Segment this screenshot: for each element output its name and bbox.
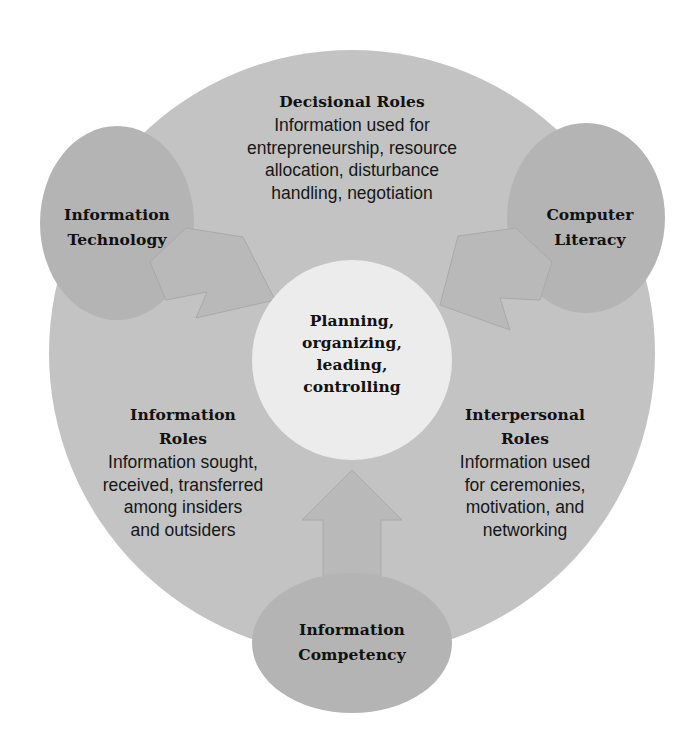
information-roles-title: Information Roles [83,403,283,451]
center-line: leading, [262,354,442,376]
description-line: networking [425,519,625,542]
title-line: Interpersonal [425,403,625,427]
label-line: Literacy [520,227,660,252]
center-functions-label: Planning, organizing, leading, controlli… [262,310,442,398]
computer-literacy-label: Computer Literacy [520,202,660,252]
description-line: Information used [425,451,625,474]
label-line: Information [37,202,197,227]
title-line: Decisional Roles [202,90,502,114]
decisional-roles-title: Decisional Roles [202,90,502,114]
label-line: Competency [272,642,432,667]
description-line: among insiders [83,496,283,519]
label-line: Information [272,617,432,642]
information-technology-label: Information Technology [37,202,197,252]
information-competency-label: Information Competency [272,617,432,667]
decisional-roles-block: Decisional Roles Information used for en… [202,90,502,204]
description-line: Information sought, [83,451,283,474]
description-line: handling, negotiation [202,182,502,205]
managerial-roles-diagram: Decisional Roles Information used for en… [0,0,691,740]
label-line: Computer [520,202,660,227]
description-line: and outsiders [83,519,283,542]
interpersonal-roles-title: Interpersonal Roles [425,403,625,451]
center-line: Planning, [262,310,442,332]
title-line: Information [83,403,283,427]
description-line: motivation, and [425,496,625,519]
label-line: Technology [37,227,197,252]
description-line: Information used for [202,114,502,137]
decisional-roles-description: Information used for entrepreneurship, r… [202,114,502,204]
description-line: entrepreneurship, resource [202,137,502,160]
center-line: organizing, [262,332,442,354]
interpersonal-roles-description: Information used for ceremonies, motivat… [425,451,625,541]
information-roles-description: Information sought, received, transferre… [83,451,283,541]
description-line: for ceremonies, [425,474,625,497]
title-line: Roles [425,427,625,451]
description-line: received, transferred [83,474,283,497]
interpersonal-roles-block: Interpersonal Roles Information used for… [425,403,625,541]
information-roles-block: Information Roles Information sought, re… [83,403,283,541]
title-line: Roles [83,427,283,451]
center-line: controlling [262,376,442,398]
description-line: allocation, disturbance [202,159,502,182]
